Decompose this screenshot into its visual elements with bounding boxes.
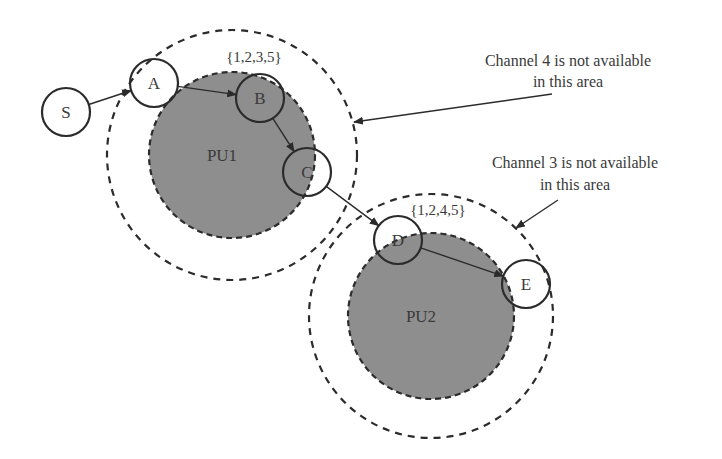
node-e-label: E (521, 275, 531, 294)
channel-set-pu2: {1,2,4,5} (410, 202, 466, 218)
edge-c-to-d (326, 186, 379, 225)
node-e: E (502, 260, 550, 308)
annotation-channel-3-line1: Channel 3 is not available (492, 154, 658, 171)
node-s-label: S (61, 103, 70, 122)
node-c-label: C (301, 163, 312, 182)
annotation-channel-4-line2: in this area (533, 73, 603, 90)
annotation-channel-4-line1: Channel 4 is not available (485, 52, 651, 69)
annotation-channel-3-line2: in this area (540, 176, 610, 193)
annotation-channel-4: Channel 4 is not available in this area (354, 52, 651, 122)
node-d-label: D (392, 231, 404, 250)
edge-s-to-a (89, 91, 131, 105)
channel-set-pu1: {1,2,3,5} (226, 49, 282, 65)
annotation-channel-3: Channel 3 is not available in this area (492, 154, 658, 228)
pu1-label: PU1 (207, 146, 237, 165)
node-s: S (42, 88, 90, 136)
node-a: A (130, 59, 178, 107)
node-a-label: A (148, 74, 161, 93)
node-b-label: B (254, 89, 265, 108)
cognitive-radio-routing-diagram: PU1 PU2 S A B C D E {1,2,3,5} {1,2, (0, 0, 722, 459)
annotation-channel-4-arrow (354, 94, 552, 122)
pu2-label: PU2 (406, 307, 436, 326)
annotation-channel-3-arrow (516, 200, 558, 228)
